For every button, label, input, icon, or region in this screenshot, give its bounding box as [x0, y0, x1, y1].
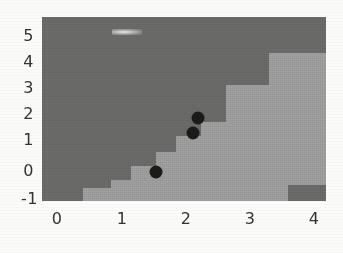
figure-root: 5 4 3 2 1 0 -1 0 1 2 3 4 [0, 0, 343, 253]
x-tick-label-4: 4 [299, 211, 329, 227]
decision-region-map [42, 17, 326, 201]
y-tick-label-1: 1 [23, 132, 34, 148]
x-tick-mark-1 [0, 22, 2, 30]
plot-area [42, 17, 326, 201]
y-tick-label-5: 5 [23, 28, 34, 44]
x-tick-label-0: 0 [42, 211, 72, 227]
x-tick-mark-0 [0, 14, 2, 22]
y-tick-label-4: 4 [23, 54, 34, 70]
y-tick-label-3: 3 [23, 80, 34, 96]
x-tick-label-1: 1 [107, 211, 137, 227]
y-tick-label-neg1: -1 [21, 191, 38, 207]
data-point [150, 166, 163, 179]
x-tick-label-3: 3 [235, 211, 265, 227]
x-tick-mark-4 [0, 46, 2, 54]
x-tick-label-2: 2 [171, 211, 201, 227]
x-tick-mark-2 [0, 30, 2, 38]
data-point [192, 112, 205, 125]
x-tick-mark-3 [0, 38, 2, 46]
y-tick-label-2: 2 [23, 106, 34, 122]
data-point [187, 127, 200, 140]
y-tick-label-0: 0 [23, 163, 34, 179]
region-class-dark-corner [288, 185, 326, 201]
